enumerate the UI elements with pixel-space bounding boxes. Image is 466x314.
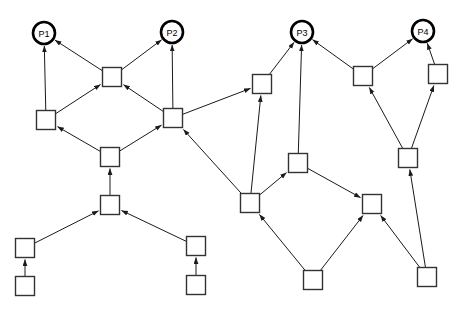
edge-s14-to-s12 [259, 215, 304, 271]
node-s15[interactable] [354, 67, 373, 86]
node-s3[interactable] [164, 109, 183, 128]
edge-s15-to-P3 [313, 40, 353, 69]
node-s9[interactable] [187, 276, 206, 295]
node-s10[interactable] [253, 75, 272, 94]
node-s4[interactable] [101, 148, 120, 167]
edge-s15-to-P4 [373, 39, 413, 69]
task-square-s14[interactable] [304, 271, 323, 290]
edge-s6-to-s5 [35, 211, 99, 243]
task-square-s10[interactable] [253, 75, 272, 94]
node-s17[interactable] [399, 149, 418, 168]
task-square-s8[interactable] [187, 237, 206, 256]
node-s6[interactable] [16, 239, 35, 258]
task-square-s6[interactable] [16, 239, 35, 258]
graph-svg: P1P2P3P4 [0, 0, 466, 314]
edge-s14-to-s13 [321, 216, 363, 271]
node-s2[interactable] [37, 111, 56, 130]
edge-s11-to-P3 [298, 45, 301, 153]
task-square-s16[interactable] [429, 65, 448, 84]
task-square-s2[interactable] [37, 111, 56, 130]
edge-s10-to-P3 [270, 42, 294, 74]
edge-s17-to-s15 [369, 88, 402, 149]
process-label-P4: P4 [417, 27, 428, 37]
node-s18[interactable] [418, 268, 437, 287]
node-s1[interactable] [103, 68, 122, 87]
edge-s17-to-s16 [412, 86, 434, 149]
edge-s3-to-P2 [172, 45, 173, 108]
node-s13[interactable] [363, 195, 382, 214]
node-s8[interactable] [187, 237, 206, 256]
edge-s8-to-s5 [122, 210, 187, 241]
edge-s4-to-s2 [58, 127, 101, 152]
node-s12[interactable] [241, 194, 260, 213]
edge-s11-to-s13 [308, 169, 361, 198]
edge-s2-to-s1 [56, 84, 101, 113]
edge-s4-to-s3 [120, 125, 162, 151]
process-label-P3: P3 [296, 28, 307, 38]
edge-s18-to-s17 [410, 170, 426, 268]
node-s5[interactable] [101, 196, 120, 215]
task-square-s4[interactable] [101, 148, 120, 167]
task-square-s5[interactable] [101, 196, 120, 215]
edge-s2-to-P1 [44, 46, 45, 110]
task-square-s17[interactable] [399, 149, 418, 168]
task-square-s1[interactable] [103, 68, 122, 87]
edge-s16-to-P4 [427, 43, 434, 64]
task-square-s12[interactable] [241, 194, 260, 213]
node-s16[interactable] [429, 65, 448, 84]
edge-s1-to-P1 [55, 40, 102, 70]
task-square-s18[interactable] [418, 268, 437, 287]
diagram-canvas: P1P2P3P4 [0, 0, 466, 314]
edge-s1-to-P2 [122, 40, 162, 70]
edge-s18-to-s13 [381, 216, 420, 268]
edge-s12-to-s3 [183, 130, 241, 194]
edge-s3-to-s10 [183, 88, 251, 114]
task-square-s15[interactable] [354, 67, 373, 86]
task-square-s3[interactable] [164, 109, 183, 128]
node-P2[interactable]: P2 [161, 21, 183, 43]
task-square-s7[interactable] [16, 277, 35, 296]
node-P1[interactable]: P1 [33, 22, 55, 44]
process-label-P2: P2 [166, 28, 177, 38]
task-square-s13[interactable] [363, 195, 382, 214]
edge-s12-to-s11 [260, 173, 287, 195]
edge-s12-to-s10 [251, 96, 261, 194]
node-P4[interactable]: P4 [412, 20, 434, 42]
task-square-s9[interactable] [187, 276, 206, 295]
process-label-P1: P1 [38, 29, 49, 39]
task-square-s11[interactable] [289, 154, 308, 173]
node-P3[interactable]: P3 [291, 21, 313, 43]
node-s14[interactable] [304, 271, 323, 290]
edge-s3-to-s1 [124, 85, 164, 112]
node-s11[interactable] [289, 154, 308, 173]
node-s7[interactable] [16, 277, 35, 296]
